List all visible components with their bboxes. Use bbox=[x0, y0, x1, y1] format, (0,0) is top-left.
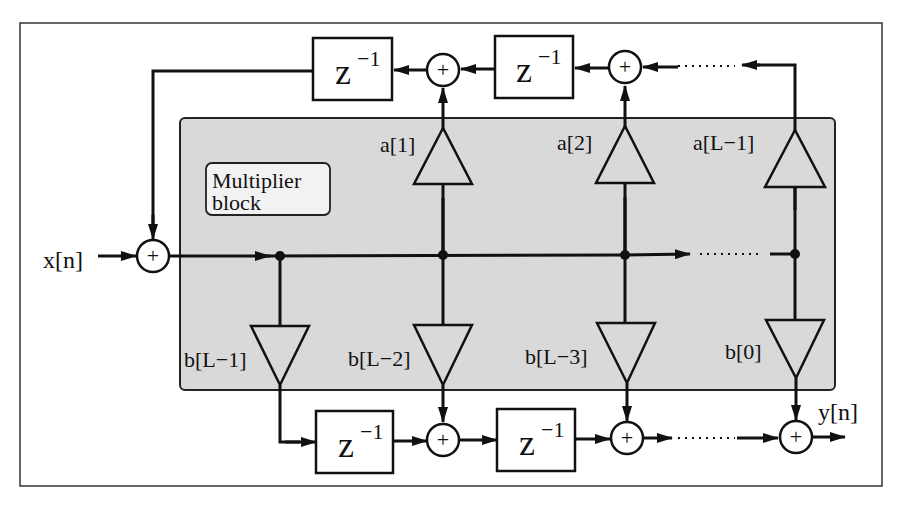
delay-label: z bbox=[335, 52, 351, 92]
delay-label: z bbox=[338, 425, 354, 465]
coef-label-bL1: b[L−1] bbox=[184, 347, 247, 372]
delay-exponent: −1 bbox=[541, 417, 564, 442]
plus-icon: + bbox=[437, 57, 449, 82]
main-line-arrow-2 bbox=[625, 254, 690, 255]
delay-label: z bbox=[519, 423, 535, 463]
coef-label-bL3: b[L−3] bbox=[525, 344, 588, 369]
delay-exponent: −1 bbox=[538, 44, 561, 69]
plus-icon: + bbox=[619, 54, 631, 79]
plus-icon: + bbox=[621, 425, 633, 450]
coef-label-bL2: b[L−2] bbox=[348, 346, 411, 371]
coef-label-a1: a[1] bbox=[380, 132, 415, 157]
bL1-output-line bbox=[280, 385, 300, 442]
multiplier-block-label-line2: block bbox=[212, 190, 261, 215]
input-label: x[n] bbox=[43, 247, 83, 273]
delay-label: z bbox=[516, 50, 532, 90]
plus-icon: + bbox=[147, 243, 159, 268]
junction-dot bbox=[275, 251, 285, 261]
coef-label-a2: a[2] bbox=[557, 130, 592, 155]
plus-icon: + bbox=[790, 424, 802, 449]
output-label: y[n] bbox=[818, 399, 858, 425]
filter-diagram: Multiplier block bbox=[0, 0, 902, 509]
coef-label-b0: b[0] bbox=[725, 339, 762, 364]
coef-label-aL1: a[L−1] bbox=[693, 130, 754, 155]
plus-icon: + bbox=[437, 427, 449, 452]
delay-exponent: −1 bbox=[360, 419, 383, 444]
delay-exponent: −1 bbox=[357, 46, 380, 71]
